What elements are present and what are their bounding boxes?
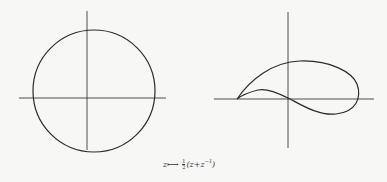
- caption-expr-open: (z+z: [186, 160, 204, 169]
- caption-exponent: −1: [205, 158, 212, 164]
- caption-expr-close: ): [212, 160, 215, 169]
- unit-circle: [33, 30, 155, 152]
- one-half-fraction: 12: [182, 159, 185, 170]
- caption-map: z⟼ 12(z+z−1): [163, 158, 215, 170]
- right-panel: [214, 12, 374, 148]
- left-panel: [19, 11, 166, 152]
- diagram-canvas: [0, 0, 387, 182]
- airfoil-curve: [237, 61, 359, 114]
- maps-to-arrow-icon: ⟼: [167, 160, 178, 169]
